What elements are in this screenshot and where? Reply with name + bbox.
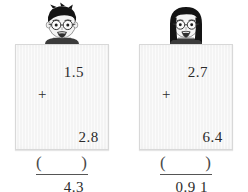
answer-blank-1[interactable]: ( ) xyxy=(0,154,124,171)
problem-group-2: 2.7 + 6.4 0.9 1 ( ) xyxy=(124,0,248,192)
boy-illustration xyxy=(35,2,89,48)
plus-operator-1: + xyxy=(38,84,47,106)
addend2-2: 6.4 xyxy=(203,129,223,145)
vertical-sum-2: 2.7 + 6.4 0.9 1 xyxy=(140,62,232,192)
addend2-1: 2.8 xyxy=(79,129,99,145)
sum-rule-2 xyxy=(160,174,212,175)
paren-open-1: ( xyxy=(36,154,43,171)
result-1: 4.3 xyxy=(36,177,88,192)
girl-illustration xyxy=(159,2,213,48)
vertical-sum-1: 1.5 + 2.8 4.3 xyxy=(16,62,108,192)
girl-with-glasses-figure xyxy=(159,2,213,48)
result-2: 0.9 1 xyxy=(160,177,212,192)
boy-with-glasses-figure xyxy=(35,2,89,48)
answer-blank-2[interactable]: ( ) xyxy=(124,154,248,171)
paren-open-2: ( xyxy=(160,154,167,171)
paren-close-2: ) xyxy=(205,154,212,171)
worksheet-canvas: 1.5 + 2.8 4.3 ( ) xyxy=(0,0,248,192)
addend1-1: 1.5 xyxy=(36,62,88,84)
problem-card-1: 1.5 + 2.8 4.3 xyxy=(15,44,109,150)
problem-card-2: 2.7 + 6.4 0.9 1 xyxy=(139,44,233,150)
problem-group-1: 1.5 + 2.8 4.3 ( ) xyxy=(0,0,124,192)
paren-close-1: ) xyxy=(81,154,88,171)
addend1-2: 2.7 xyxy=(160,62,212,84)
plus-operator-2: + xyxy=(162,84,171,106)
sum-rule-1 xyxy=(36,174,88,175)
